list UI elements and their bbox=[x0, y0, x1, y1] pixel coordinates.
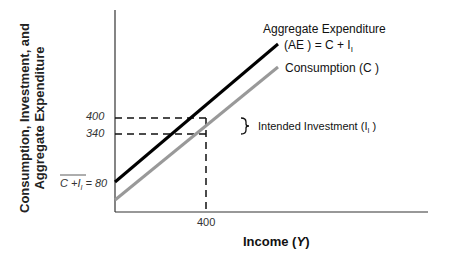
ii-text: Intended Investment (I bbox=[258, 120, 367, 132]
tick-80-text: C +I bbox=[60, 177, 80, 189]
ii-close: ) bbox=[369, 120, 376, 132]
y-tick-80: C +II = 80 bbox=[60, 177, 107, 191]
x-axis-label: Income (Y) bbox=[243, 234, 309, 249]
tick-80-value: = 80 bbox=[82, 177, 107, 189]
aggregate-expenditure-line bbox=[115, 44, 278, 182]
x-label-var: Y bbox=[296, 234, 305, 249]
y-tick-400: 400 bbox=[86, 110, 104, 122]
ae-formula: (AE ) = C + I bbox=[284, 38, 351, 52]
x-tick-400: 400 bbox=[197, 216, 215, 228]
x-label-text: Income ( bbox=[243, 234, 296, 249]
chart-canvas bbox=[0, 0, 449, 259]
ae-label-line2: (AE ) = C + II bbox=[284, 38, 353, 54]
y-tick-340: 340 bbox=[86, 127, 104, 139]
y-axis-label-line2: Aggregate Expenditure bbox=[32, 23, 47, 213]
intended-investment-label: Intended Investment (II ) bbox=[258, 120, 376, 134]
ae-label-line1: Aggregate Expenditure bbox=[263, 22, 386, 36]
investment-brace bbox=[241, 118, 249, 134]
x-label-close: ) bbox=[305, 234, 309, 249]
y-axis-label-line1: Consumption, Investment, and bbox=[17, 23, 32, 213]
consumption-label: Consumption (C ) bbox=[285, 61, 379, 75]
ae-formula-sub: I bbox=[351, 45, 353, 54]
y-axis-label: Consumption, Investment, and Aggregate E… bbox=[2, 0, 62, 259]
